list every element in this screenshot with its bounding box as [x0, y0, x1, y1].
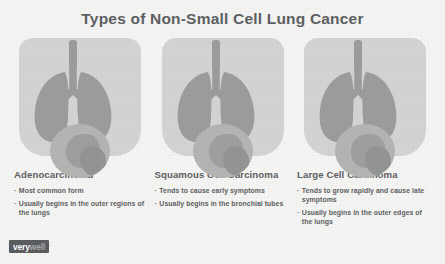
panel-bullet-2-1: · Tends to cause early symptoms	[155, 186, 291, 195]
bullet-text: Tends to cause early symptoms	[159, 186, 290, 195]
cancer-type-panel-adenocarcinoma: Adenocarcinoma · Most common form · Usua…	[12, 36, 148, 232]
page-title: Types of Non-Small Cell Lung Cancer	[0, 10, 445, 28]
tumor-magnifier-2	[193, 124, 253, 178]
bullet-marker-icon: ·	[14, 186, 16, 195]
tumor-shape-1b	[80, 146, 106, 176]
logo-text-very: very	[13, 242, 30, 252]
bullet-text: Usually begins in the outer edges of the…	[302, 208, 433, 227]
lung-illustration-2	[155, 36, 291, 162]
bullet-marker-icon: ·	[297, 186, 299, 195]
bullet-text: Usually begins in the outer regions of t…	[19, 199, 150, 218]
bullet-marker-icon: ·	[297, 208, 299, 217]
lung-illustration-3	[297, 36, 433, 162]
bullet-marker-icon: ·	[155, 199, 157, 208]
panel-bullet-1-1: · Most common form	[14, 186, 150, 195]
panel-bullet-2-2: · Usually begins in the bronchial tubes	[155, 199, 291, 208]
logo-text-well: well	[30, 242, 45, 252]
tumor-shape-2b	[223, 146, 249, 176]
cancer-type-panel-squamous-cell-carcinoma: Squamous Cell Carcinoma · Tends to cause…	[155, 36, 291, 232]
bullet-text: Most common form	[19, 186, 150, 195]
tumor-shape-3b	[365, 146, 391, 176]
bullet-marker-icon: ·	[155, 186, 157, 195]
bullet-text: Usually begins in the bronchial tubes	[159, 199, 290, 208]
tumor-magnifier-3	[335, 124, 395, 178]
tumor-magnifier-1	[50, 124, 110, 178]
panel-bullet-3-1: · Tends to grow rapidly and cause late s…	[297, 186, 433, 205]
verywell-logo: verywell	[9, 240, 49, 253]
panel-text-3: Large Cell Carcinoma · Tends to grow rap…	[297, 170, 433, 231]
infographic-canvas: Types of Non-Small Cell Lung Cancer	[0, 0, 445, 264]
panel-bullet-1-2: · Usually begins in the outer regions of…	[14, 199, 150, 218]
bullet-marker-icon: ·	[14, 199, 16, 208]
cancer-type-panel-large-cell-carcinoma: Large Cell Carcinoma · Tends to grow rap…	[297, 36, 433, 232]
panel-bullet-3-2: · Usually begins in the outer edges of t…	[297, 208, 433, 227]
lung-illustration-1	[12, 36, 148, 162]
panel-group: Adenocarcinoma · Most common form · Usua…	[0, 36, 445, 236]
bullet-text: Tends to grow rapidly and cause late sym…	[302, 186, 433, 205]
